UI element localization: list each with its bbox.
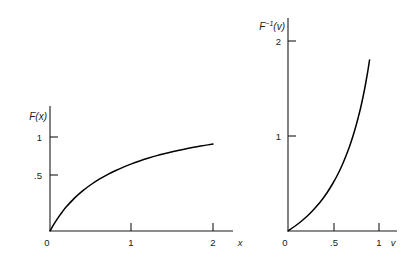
chart-right-svg: 2 1 0 .5 1 F−1(v) v	[250, 0, 408, 260]
right-y-axis-label-exponent: −1	[265, 20, 273, 27]
chart-panel-right: 2 1 0 .5 1 F−1(v) v	[250, 0, 408, 260]
left-x-axis-label: x	[237, 237, 244, 248]
right-y-axis-label-arg: (v)	[273, 21, 285, 32]
right-y-ticklabel-1: 1	[276, 131, 281, 142]
left-x-ticklabel-1: 1	[128, 237, 133, 248]
left-y-ticklabel-1: 1	[37, 132, 42, 143]
left-x-ticklabel-2: 2	[210, 237, 215, 248]
left-y-ticklabel-half: .5	[34, 170, 42, 181]
right-inverse-cdf-curve	[288, 60, 370, 231]
chart-panel-left: 1 .5 0 1 2 F(x) x	[0, 0, 250, 260]
right-y-axis-label: F−1(v)	[259, 20, 285, 32]
right-x-ticklabel-1: 1	[376, 237, 381, 248]
left-y-axis-label: F(x)	[29, 111, 47, 122]
right-x-axis-label: v	[391, 237, 397, 248]
figure-container: 1 .5 0 1 2 F(x) x 2	[0, 0, 408, 260]
right-y-ticklabel-2: 2	[276, 36, 281, 47]
right-x-ticklabel-half: .5	[330, 237, 338, 248]
right-x-ticklabel-0: 0	[282, 237, 287, 248]
left-cdf-curve	[50, 144, 213, 231]
left-x-ticklabel-0: 0	[44, 237, 49, 248]
chart-left-svg: 1 .5 0 1 2 F(x) x	[0, 0, 250, 260]
